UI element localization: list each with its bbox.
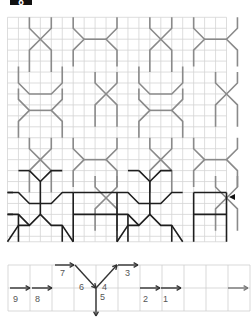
step-label: 7: [60, 268, 65, 278]
step-label: 4: [102, 282, 107, 292]
step-label: 2: [143, 294, 148, 304]
step-label: 6: [79, 282, 84, 292]
step-label: 3: [125, 268, 130, 278]
step-label: 1: [163, 294, 168, 304]
step-label: 9: [13, 294, 18, 304]
step-label: 5: [100, 292, 105, 302]
sequence-strip: 987654321: [8, 263, 250, 316]
step-label: 8: [35, 294, 40, 304]
pattern-diagram: 987654321: [0, 0, 251, 319]
